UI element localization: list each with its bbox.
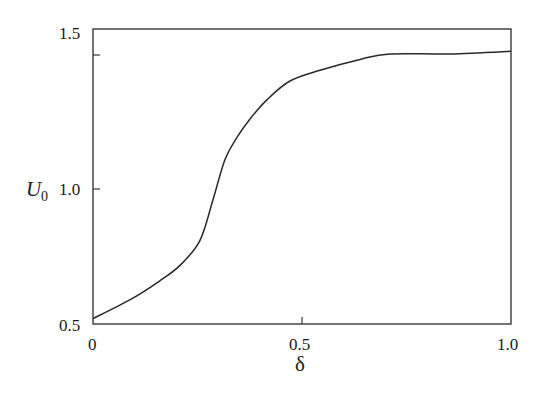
plot-frame (93, 29, 511, 324)
x-tick-label-0: 0 (88, 335, 97, 354)
y-axis-label-subscript: 0 (41, 189, 48, 204)
y-tick-label-0-5: 0.5 (59, 316, 80, 335)
y-tick-label-1-5: 1.5 (59, 24, 80, 43)
x-tick-label-1-0: 1.0 (497, 335, 518, 354)
y-tick-label-1-0: 1.0 (59, 180, 80, 199)
x-axis-label: δ (295, 352, 305, 376)
data-curve-u0 (93, 51, 511, 318)
chart-canvas: 1.5 1.0 0.5 0 0.5 1.0 δ U 0 (0, 0, 549, 393)
